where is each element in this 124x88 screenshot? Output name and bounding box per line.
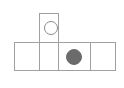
diagram-canvas xyxy=(0,0,124,88)
grid-cell-bottom-4[interactable] xyxy=(90,42,116,71)
hollow-circle-icon[interactable] xyxy=(44,21,58,35)
grid-cell-bottom-2[interactable] xyxy=(39,42,59,71)
filled-circle-icon[interactable] xyxy=(66,49,82,65)
grid-cell-bottom-1[interactable] xyxy=(14,42,40,71)
